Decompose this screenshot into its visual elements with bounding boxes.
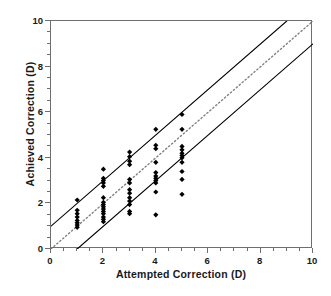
data-point xyxy=(127,180,132,185)
x-tick-mark xyxy=(155,248,156,253)
y-tick-mark xyxy=(47,77,50,78)
x-axis-title: Attempted Correction (D) xyxy=(50,268,312,280)
y-tick-mark xyxy=(45,111,50,112)
x-tick-mark xyxy=(194,248,195,251)
data-point xyxy=(101,184,106,189)
data-point xyxy=(127,162,132,167)
x-tick-mark xyxy=(102,248,103,253)
x-tick-mark xyxy=(142,248,143,251)
y-tick-mark xyxy=(45,66,50,67)
x-tick-mark xyxy=(260,248,261,253)
plot-canvas xyxy=(51,21,313,249)
y-tick-label: 10 xyxy=(19,15,43,26)
y-tick-label: 8 xyxy=(19,61,43,72)
x-tick-label: 10 xyxy=(300,255,324,266)
x-tick-label: 4 xyxy=(143,255,167,266)
x-tick-mark xyxy=(312,248,313,253)
data-point xyxy=(127,154,132,159)
data-point xyxy=(127,191,132,196)
data-point xyxy=(179,169,184,174)
y-tick-mark xyxy=(47,54,50,55)
y-tick-mark xyxy=(45,20,50,21)
y-tick-mark xyxy=(47,100,50,101)
x-tick-mark xyxy=(129,248,130,251)
x-tick-label: 0 xyxy=(38,255,62,266)
y-tick-mark xyxy=(47,123,50,124)
data-point xyxy=(179,177,184,182)
y-tick-mark xyxy=(47,180,50,181)
data-point xyxy=(179,192,184,197)
x-tick-mark xyxy=(116,248,117,251)
y-tick-mark xyxy=(47,225,50,226)
x-tick-label: 6 xyxy=(195,255,219,266)
y-tick-mark xyxy=(47,31,50,32)
y-tick-label: 6 xyxy=(19,106,43,117)
y-tick-mark xyxy=(47,168,50,169)
x-tick-mark xyxy=(89,248,90,251)
y-tick-mark xyxy=(45,248,50,249)
identity-line xyxy=(51,21,313,249)
data-point xyxy=(153,127,158,132)
data-point xyxy=(153,146,158,151)
y-tick-mark xyxy=(47,145,50,146)
x-tick-mark xyxy=(299,248,300,251)
y-tick-label: 0 xyxy=(19,243,43,254)
scatter-chart-figure: Achieved Correction (D) Attempted Correc… xyxy=(0,0,331,296)
data-point xyxy=(179,112,184,117)
y-tick-label: 2 xyxy=(19,197,43,208)
x-tick-label: 2 xyxy=(90,255,114,266)
x-tick-mark xyxy=(50,248,51,253)
y-tick-label: 4 xyxy=(19,152,43,163)
x-tick-mark xyxy=(233,248,234,251)
y-tick-mark xyxy=(47,237,50,238)
plot-area xyxy=(50,20,312,248)
y-tick-mark xyxy=(45,202,50,203)
y-tick-mark xyxy=(47,43,50,44)
y-tick-mark xyxy=(47,214,50,215)
x-tick-mark xyxy=(168,248,169,251)
data-point xyxy=(127,150,132,155)
x-tick-label: 8 xyxy=(248,255,272,266)
lower-limit-line xyxy=(77,44,313,249)
x-tick-mark xyxy=(220,248,221,251)
reference-lines-layer xyxy=(51,21,313,249)
x-tick-mark xyxy=(63,248,64,251)
x-tick-mark xyxy=(181,248,182,251)
data-point xyxy=(179,127,184,132)
x-tick-mark xyxy=(207,248,208,253)
upper-limit-line xyxy=(51,21,287,226)
data-point xyxy=(153,212,158,217)
data-point xyxy=(153,160,158,165)
x-tick-mark xyxy=(286,248,287,251)
x-tick-mark xyxy=(273,248,274,251)
y-tick-mark xyxy=(47,88,50,89)
x-tick-mark xyxy=(247,248,248,251)
data-point xyxy=(153,189,158,194)
data-point xyxy=(127,202,132,207)
y-tick-mark xyxy=(47,134,50,135)
y-tick-mark xyxy=(47,191,50,192)
data-point xyxy=(101,167,106,172)
data-point xyxy=(179,160,184,165)
x-tick-mark xyxy=(76,248,77,251)
data-points-layer xyxy=(75,112,185,230)
y-tick-mark xyxy=(45,157,50,158)
data-point xyxy=(101,195,106,200)
